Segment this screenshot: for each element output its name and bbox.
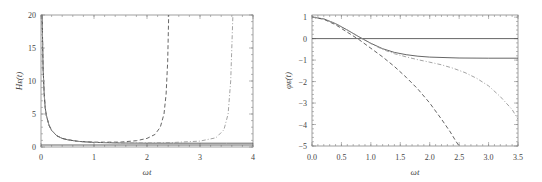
series-line-solid [312,17,518,58]
x-tick-label: 1.0 [366,153,376,162]
x-tick-label: 2.0 [425,153,435,162]
y-tick-label: 0 [303,35,307,44]
y-tick-label: 20 [28,11,36,20]
series-line-dashed [312,17,459,146]
series-line-solid [42,15,253,143]
x-tick-label: 0 [39,153,43,162]
plot-frame [41,15,253,147]
y-tick-label: 0 [32,143,36,152]
plot-amplitude: 0123405101520ωtHᴇ(t) [14,11,255,177]
series-line-dot-dashed [312,17,518,119]
x-axis-label: ωt [143,167,152,177]
y-tick-label: −5 [298,142,307,151]
x-tick-label: 0.0 [307,153,317,162]
x-tick-label: 3.0 [484,153,494,162]
x-tick-label: 0.5 [336,153,346,162]
x-tick-label: 3 [198,153,202,162]
y-tick-label: 10 [28,77,36,86]
x-tick-label: 2 [145,153,149,162]
x-tick-label: 1 [92,153,96,162]
series-line-dashed [42,15,169,142]
x-tick-label: 1.5 [395,153,405,162]
y-axis-label: φᴇ(t) [283,72,293,89]
series-line-dot-dashed [42,15,233,143]
y-tick-label: −1 [298,56,307,65]
x-axis-label: ωt [411,167,420,177]
figure: 0123405101520ωtHᴇ(t) 0.00.51.01.52.02.53… [0,0,542,182]
y-axis-label: Hᴇ(t) [14,72,24,92]
plot-phase: 0.00.51.01.52.02.53.03.5−5−4−3−2−101ωtφᴇ… [283,13,523,177]
y-tick-label: −2 [298,78,307,87]
y-tick-label: 15 [28,44,36,53]
y-tick-label: −3 [298,99,307,108]
plot-frame [312,15,518,146]
y-tick-label: 5 [32,110,36,119]
x-tick-label: 3.5 [513,153,523,162]
y-tick-label: −4 [298,121,307,130]
x-tick-label: 4 [251,153,255,162]
y-tick-label: 1 [303,13,307,22]
x-tick-label: 2.5 [454,153,464,162]
